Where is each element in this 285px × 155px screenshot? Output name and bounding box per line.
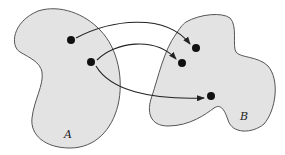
set-b-region [149, 15, 275, 132]
point-b-1 [192, 44, 200, 52]
point-a-2 [87, 58, 95, 66]
point-b-3 [207, 92, 215, 100]
point-a-1 [67, 36, 75, 44]
set-b-label: B [239, 110, 248, 123]
point-b-2 [178, 59, 186, 67]
function-mapping-diagram: A B [0, 0, 285, 155]
set-a-label: A [63, 128, 72, 141]
